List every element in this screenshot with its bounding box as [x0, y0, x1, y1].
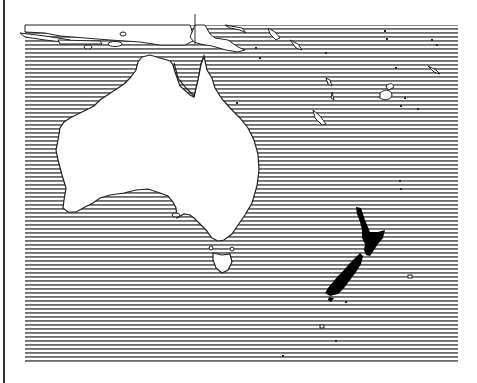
flinders-island — [209, 246, 213, 250]
timor-island — [108, 42, 122, 47]
kangaroo-island — [172, 213, 180, 217]
king-island — [230, 247, 234, 251]
chatham-island — [408, 275, 412, 278]
small-island — [84, 45, 92, 49]
small-island — [120, 32, 126, 36]
map-canvas — [0, 0, 477, 383]
map: Australia and New Zealand — [0, 0, 477, 383]
auckland-island — [320, 325, 324, 328]
lesser-sunda-islands — [58, 40, 102, 44]
